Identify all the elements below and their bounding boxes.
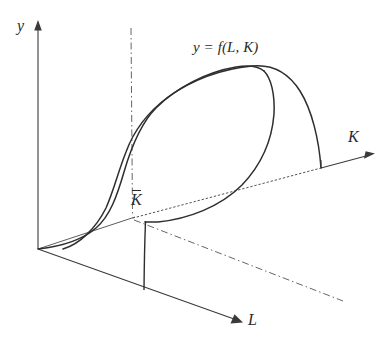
k-bar-overbar-wrapper: K (131, 190, 142, 208)
l-axis (38, 249, 234, 319)
k-bar-letter: K (131, 191, 142, 208)
function-equation-label: y = f(L, K) (193, 40, 258, 55)
k-axis-arrow-icon (364, 151, 375, 159)
k-axis-label: K (348, 129, 359, 145)
vertical-dashdot-line (131, 28, 133, 216)
k-bar-label: K (131, 190, 142, 208)
base-dotted-line (133, 168, 321, 218)
overbar-glyph (132, 190, 141, 191)
k-bar-drop-line (144, 221, 146, 290)
k-axis (321, 156, 366, 168)
y-axis-arrow-icon (34, 20, 42, 31)
figure-container: y K L y = f(L, K) K (0, 0, 385, 359)
diagonal-dashdot-line (134, 220, 343, 301)
y-axis-label: y (17, 18, 24, 34)
front-descending-edge (145, 71, 274, 222)
base-thin-line (38, 217, 135, 249)
l-axis-label: L (248, 312, 257, 328)
